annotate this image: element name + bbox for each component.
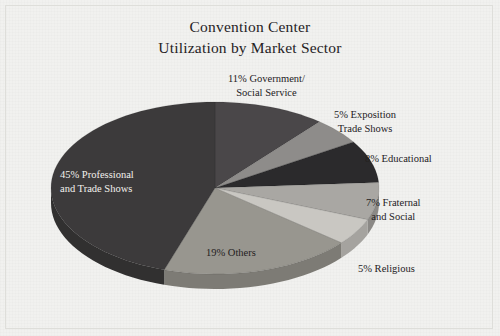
chart-page: Convention Center Utilization by Market … bbox=[0, 0, 500, 336]
pie-label-line: Trade Shows bbox=[334, 122, 396, 136]
pie-label-educational: 8% Educational bbox=[365, 152, 432, 166]
pie-label-line: 5% Exposition bbox=[334, 108, 396, 122]
pie-label-line: and Social bbox=[366, 210, 421, 224]
pie-label-fraternal-and-social: 7% Fraternal and Social bbox=[366, 196, 421, 223]
pie-label-line: 45% Professional bbox=[60, 168, 134, 182]
pie-label-line: and Trade Shows bbox=[60, 182, 134, 196]
pie-label-line: Social Service bbox=[228, 86, 305, 100]
pie-label-line: 5% Religious bbox=[358, 262, 415, 276]
pie-label-government-social-service: 11% Government/ Social Service bbox=[228, 72, 305, 99]
pie-label-line: 7% Fraternal bbox=[366, 196, 421, 210]
pie-label-line: 19% Others bbox=[206, 246, 256, 260]
pie-label-others: 19% Others bbox=[206, 246, 256, 260]
pie-label-professional-and-trade-shows: 45% Professional and Trade Shows bbox=[60, 168, 134, 195]
pie-label-exposition-trade-shows: 5% Exposition Trade Shows bbox=[334, 108, 396, 135]
pie-label-religious: 5% Religious bbox=[358, 262, 415, 276]
pie-label-line: 11% Government/ bbox=[228, 72, 305, 86]
pie-chart: 11% Government/ Social Service 5% Exposi… bbox=[0, 0, 500, 336]
pie-label-line: 8% Educational bbox=[365, 152, 432, 166]
